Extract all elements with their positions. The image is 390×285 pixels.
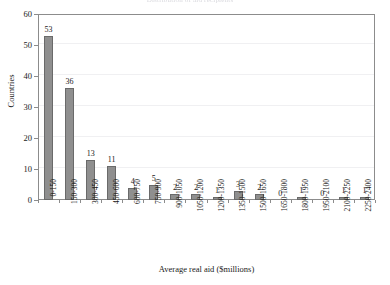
x-axis-tick-mark xyxy=(80,200,81,203)
x-axis-tick-mark xyxy=(185,200,186,203)
bar-value-label: 11 xyxy=(101,155,123,164)
x-axis-category: 300-450 xyxy=(80,205,101,257)
y-axis-tick-label: 30 xyxy=(24,102,33,112)
x-axis-tick-mark xyxy=(354,200,355,203)
bar-slot[interactable]: 2 xyxy=(185,14,206,200)
x-axis-tick-mark xyxy=(143,200,144,203)
x-axis-category-label: 0-150 xyxy=(49,179,58,231)
bar-series: 53361311452213201011 xyxy=(38,14,375,200)
bar-slot[interactable]: 0 xyxy=(270,14,291,200)
x-axis-category-label: 1650-1800 xyxy=(280,179,289,231)
bar-slot[interactable]: 2 xyxy=(249,14,270,200)
x-axis-category-label: 150-300 xyxy=(70,179,79,231)
bar-slot[interactable]: 13 xyxy=(80,14,101,200)
y-axis-tick: 20 xyxy=(0,133,38,143)
x-axis-title: Average real aid ($millions) xyxy=(38,264,375,274)
x-axis-category-label: 600-750 xyxy=(133,179,142,231)
y-axis-tick-label: 50 xyxy=(24,40,33,50)
x-axis-tick-mark xyxy=(375,200,376,203)
x-axis-category: 1650-1800 xyxy=(270,205,291,257)
x-axis-category: 2250-2400 xyxy=(354,205,375,257)
x-axis-category: 1350-1500 xyxy=(228,205,249,257)
bar[interactable] xyxy=(44,36,53,200)
x-axis-category: 1950-2100 xyxy=(312,205,333,257)
x-axis-category: 600-750 xyxy=(122,205,143,257)
bar-slot[interactable]: 4 xyxy=(122,14,143,200)
bar-chart-figure: Countries 0102030405060 5336131145221320… xyxy=(0,0,390,285)
y-axis-tick-label: 60 xyxy=(24,9,33,19)
x-axis-category: 0-150 xyxy=(38,205,59,257)
bar-value-label: 13 xyxy=(80,149,102,158)
bar-slot[interactable]: 1 xyxy=(207,14,228,200)
bar-value-label: 53 xyxy=(38,25,60,34)
bar-slot[interactable]: 11 xyxy=(101,14,122,200)
x-axis-category: 750-900 xyxy=(143,205,164,257)
bar-slot[interactable]: 53 xyxy=(38,14,59,200)
bar-value-label: 36 xyxy=(59,77,81,86)
x-axis-category-label: 450-600 xyxy=(112,179,121,231)
x-axis-category-label: 750-900 xyxy=(154,179,163,231)
y-axis-tick-label: 40 xyxy=(24,71,33,81)
bar-slot[interactable]: 1 xyxy=(333,14,354,200)
bar-slot[interactable]: 36 xyxy=(59,14,80,200)
bar-slot[interactable]: 0 xyxy=(312,14,333,200)
x-axis-tick-mark xyxy=(312,200,313,203)
x-axis-tick-mark xyxy=(228,200,229,203)
bar-slot[interactable]: 1 xyxy=(291,14,312,200)
x-axis-category-label: 1200-1350 xyxy=(217,179,226,231)
x-axis-category-label: 1050-1200 xyxy=(196,179,205,231)
x-axis-category: 1200-1350 xyxy=(207,205,228,257)
x-axis-category-labels: 0-150150-300300-450450-600600-750750-900… xyxy=(38,205,375,260)
bar-slot[interactable]: 1 xyxy=(354,14,375,200)
x-axis-tick-mark xyxy=(291,200,292,203)
x-axis-category-label: 2100-2250 xyxy=(343,179,352,231)
y-axis-tick: 30 xyxy=(0,102,38,112)
x-axis-tick-mark xyxy=(270,200,271,203)
x-axis-category-label: 1800-1950 xyxy=(301,179,310,231)
x-axis-tick-mark xyxy=(101,200,102,203)
x-axis-category-label: 1500-1650 xyxy=(259,179,268,231)
x-axis-category: 900-1050 xyxy=(164,205,185,257)
x-axis-tick-mark xyxy=(59,200,60,203)
y-axis-tick: 40 xyxy=(0,71,38,81)
x-axis-tick-mark xyxy=(38,200,39,203)
x-axis-tick-mark xyxy=(164,200,165,203)
x-axis-category-label: 300-450 xyxy=(91,179,100,231)
bar-slot[interactable]: 2 xyxy=(164,14,185,200)
x-axis-category: 1800-1950 xyxy=(291,205,312,257)
x-axis-tick-mark xyxy=(122,200,123,203)
x-axis-category-label: 2250-2400 xyxy=(364,179,373,231)
x-axis-category-label: 1350-1500 xyxy=(238,179,247,231)
bar-slot[interactable]: 3 xyxy=(228,14,249,200)
y-axis-tick-label: 20 xyxy=(24,133,33,143)
x-axis-category-label: 900-1050 xyxy=(175,179,184,231)
y-axis-tick-labels: 0102030405060 xyxy=(0,14,38,200)
x-axis-tick-mark xyxy=(333,200,334,203)
x-axis-category: 1500-1650 xyxy=(249,205,270,257)
x-axis-category: 1050-1200 xyxy=(185,205,206,257)
x-axis-tick-mark xyxy=(207,200,208,203)
x-axis-category: 450-600 xyxy=(101,205,122,257)
x-axis-tick-mark xyxy=(249,200,250,203)
x-axis-category: 2100-2250 xyxy=(333,205,354,257)
y-axis-tick: 50 xyxy=(0,40,38,50)
y-axis-tick: 60 xyxy=(0,9,38,19)
y-axis-tick: 0 xyxy=(0,195,38,205)
x-axis-category-label: 1950-2100 xyxy=(322,179,331,231)
y-axis-tick-label: 0 xyxy=(28,195,32,205)
bar-slot[interactable]: 5 xyxy=(143,14,164,200)
y-axis-tick-label: 10 xyxy=(24,164,33,174)
y-axis-tick: 10 xyxy=(0,164,38,174)
x-axis-category: 150-300 xyxy=(59,205,80,257)
